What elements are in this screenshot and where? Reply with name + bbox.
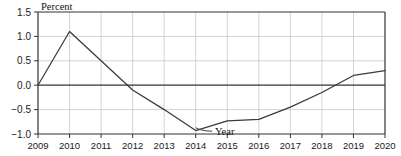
y-tick-label: 0.0	[17, 80, 31, 91]
x-tick-label: 2013	[154, 140, 175, 151]
x-tick-label: 2011	[91, 140, 111, 151]
chart-container: 1.51.00.50.0−0.5−1.0 2009201020112012201…	[0, 0, 401, 156]
y-axis-label: Percent	[41, 1, 73, 12]
x-tick-label: 2014	[185, 140, 206, 151]
x-tick-label: 2019	[343, 140, 364, 151]
x-tick-label: 2010	[59, 140, 80, 151]
y-tick-label: −1.0	[11, 129, 31, 140]
x-tick-label: 2009	[27, 140, 48, 151]
y-tick-label: 0.5	[17, 55, 31, 66]
x-tick-label: 2020	[374, 140, 395, 151]
y-tick-label: 1.0	[17, 31, 31, 42]
x-tick-label: 2017	[280, 140, 301, 151]
chart-background	[0, 0, 401, 156]
x-axis-label: Year	[215, 126, 235, 137]
x-tick-label: 2016	[248, 140, 269, 151]
line-chart: 1.51.00.50.0−0.5−1.0 2009201020112012201…	[0, 0, 401, 156]
x-tick-label: 2012	[122, 140, 143, 151]
x-tick-label: 2018	[311, 140, 332, 151]
x-tick-label: 2015	[217, 140, 238, 151]
y-tick-label: −0.5	[11, 104, 31, 115]
y-tick-label: 1.5	[17, 7, 31, 18]
